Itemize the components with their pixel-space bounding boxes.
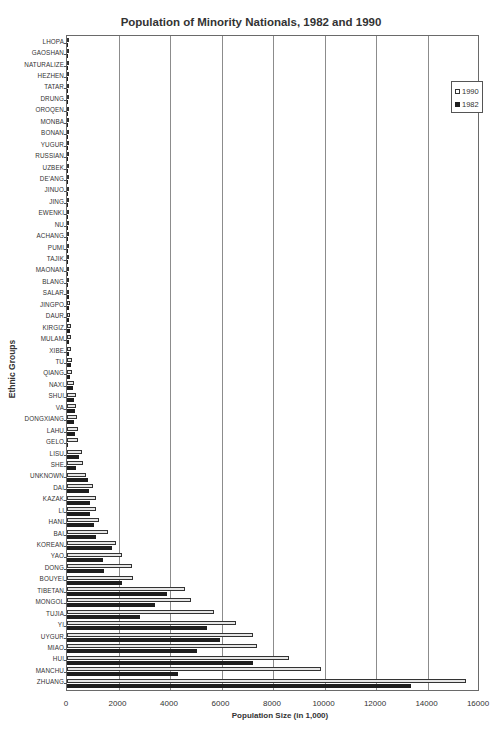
- bar-1982: [67, 260, 68, 264]
- bar-1982: [67, 112, 68, 116]
- y-tick: [64, 500, 67, 501]
- bar-1982: [67, 638, 220, 642]
- bar-1990: [67, 141, 69, 145]
- x-tick-label: 2000: [98, 699, 138, 708]
- y-tick: [64, 249, 67, 250]
- bar-1990: [67, 290, 69, 294]
- bar-1990: [67, 633, 253, 637]
- bar-1982: [67, 283, 68, 287]
- x-tick-label: 12000: [355, 699, 395, 708]
- y-tick-label: UNKNOWN: [30, 472, 64, 479]
- gridline: [222, 36, 223, 690]
- bar-1982: [67, 398, 74, 402]
- y-tick: [64, 260, 67, 261]
- bar-1982: [67, 203, 68, 207]
- bar-1990: [67, 518, 99, 522]
- bar-1982: [67, 89, 68, 93]
- bar-1982: [67, 226, 68, 230]
- bar-1982: [67, 649, 197, 653]
- bar-1990: [67, 347, 71, 351]
- y-tick: [64, 317, 67, 318]
- y-tick-label: DRUNG: [40, 95, 64, 102]
- bar-1982: [67, 100, 68, 104]
- bar-1990: [67, 187, 69, 191]
- y-tick-label: BONAN: [41, 129, 64, 136]
- y-tick: [64, 626, 67, 627]
- y-tick: [64, 329, 67, 330]
- bar-1990: [67, 507, 96, 511]
- gridline: [170, 36, 171, 690]
- y-tick-label: GELO: [46, 438, 64, 445]
- y-tick: [64, 123, 67, 124]
- y-tick-label: DAI: [53, 484, 64, 491]
- y-tick: [64, 546, 67, 547]
- y-tick-label: TIBETAN: [37, 587, 64, 594]
- y-axis-title: Ethnic Groups: [7, 335, 17, 403]
- y-tick: [64, 100, 67, 101]
- bar-1982: [67, 169, 68, 173]
- bar-1982: [67, 146, 68, 150]
- y-tick-label: UZBEK: [43, 164, 65, 171]
- bar-1982: [67, 318, 69, 322]
- bar-1990: [67, 393, 76, 397]
- bar-1990: [67, 587, 185, 591]
- y-tick-label: OROQEN: [35, 106, 64, 113]
- y-tick-label: VA: [56, 404, 64, 411]
- bar-1982: [67, 466, 76, 470]
- bar-1982: [67, 558, 103, 562]
- y-tick: [64, 203, 67, 204]
- x-tick-label: 16000: [458, 699, 498, 708]
- bar-1982: [67, 569, 104, 573]
- bar-1990: [67, 164, 69, 168]
- y-tick-label: LISU: [50, 450, 64, 457]
- bar-1990: [67, 61, 69, 65]
- y-tick: [64, 592, 67, 593]
- bar-1990: [67, 255, 69, 259]
- y-tick: [64, 615, 67, 616]
- bar-1990: [67, 335, 71, 339]
- bar-1990: [67, 118, 69, 122]
- y-tick: [64, 111, 67, 112]
- y-tick: [64, 512, 67, 513]
- bar-1990: [67, 175, 69, 179]
- y-tick-label: YUGUR: [41, 141, 64, 148]
- bar-1990: [67, 450, 82, 454]
- y-tick: [64, 535, 67, 536]
- bar-1982: [67, 352, 69, 356]
- y-tick: [64, 672, 67, 673]
- y-tick-label: ACHANG: [36, 232, 64, 239]
- y-tick-label: SHE: [51, 461, 64, 468]
- x-tick-label: 14000: [407, 699, 447, 708]
- gridline: [273, 36, 274, 690]
- y-tick-label: DONGXIANG: [25, 415, 64, 422]
- bar-1982: [67, 180, 68, 184]
- y-tick-label: MANCHU: [36, 667, 64, 674]
- y-tick: [64, 397, 67, 398]
- bar-1990: [67, 564, 132, 568]
- bar-1982: [67, 615, 140, 619]
- bar-1982: [67, 592, 167, 596]
- bar-1990: [67, 404, 76, 408]
- bar-1990: [67, 427, 78, 431]
- bar-1982: [67, 249, 68, 253]
- y-tick: [64, 557, 67, 558]
- y-tick-label: TAJIK: [47, 255, 64, 262]
- bar-1990: [67, 267, 69, 271]
- y-tick-label: JINGPO: [40, 301, 64, 308]
- bar-1982: [67, 375, 70, 379]
- gridline: [376, 36, 377, 690]
- gridline: [325, 36, 326, 690]
- y-tick: [64, 294, 67, 295]
- legend-item-1982: 1982: [455, 100, 479, 109]
- y-tick: [64, 649, 67, 650]
- y-tick-label: MAONAN: [36, 266, 64, 273]
- y-tick-label: QIANG: [43, 369, 64, 376]
- bar-1990: [67, 198, 69, 202]
- bar-1990: [67, 541, 116, 545]
- y-tick-label: HEZHEN: [38, 72, 65, 79]
- y-tick-label: TUJIA: [46, 610, 64, 617]
- y-tick: [64, 54, 67, 55]
- bar-1982: [67, 684, 411, 688]
- y-tick: [64, 271, 67, 272]
- y-tick-label: KAZAK: [43, 495, 64, 502]
